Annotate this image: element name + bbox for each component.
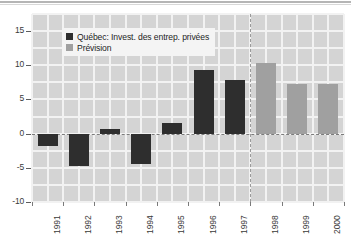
x-tick-mark xyxy=(157,202,158,206)
bar-1994 xyxy=(131,134,151,165)
bar-1998 xyxy=(256,63,276,134)
bar-1997 xyxy=(225,80,245,133)
y-tick-mark xyxy=(26,31,31,32)
x-tick-mark xyxy=(344,202,345,206)
x-tick-mark xyxy=(250,202,251,206)
header-rule-secondary xyxy=(0,4,351,5)
y-tick-mark xyxy=(26,134,31,135)
y-tick-label-neg10: -10 xyxy=(0,197,24,206)
y-tick-mark xyxy=(26,168,31,169)
legend-label-actual: Québec: Invest. des entrep. privées xyxy=(77,32,209,42)
x-tick-label-1992: 1992 xyxy=(83,215,93,234)
x-tick-label-1991: 1991 xyxy=(52,215,62,234)
y-tick-mark xyxy=(26,65,31,66)
x-tick-label-1993: 1993 xyxy=(114,215,124,234)
bar-1993 xyxy=(100,129,120,134)
y-tick-label-5: 5 xyxy=(0,94,24,103)
bar-1995 xyxy=(162,123,182,134)
legend-item-forecast: Prévision xyxy=(66,42,209,53)
legend-label-forecast: Prévision xyxy=(77,43,111,53)
y-tick-mark xyxy=(26,99,31,100)
x-tick-mark xyxy=(32,202,33,206)
legend-item-actual: Québec: Invest. des entrep. privées xyxy=(66,31,209,42)
x-tick-mark xyxy=(282,202,283,206)
legend-swatch-actual xyxy=(66,33,73,40)
x-tick-mark xyxy=(188,202,189,206)
y-tick-label-neg5: -5 xyxy=(0,163,24,172)
chart-figure: 151050-5-10 1991199219931994199519961997… xyxy=(0,0,351,240)
bar-1992 xyxy=(69,134,89,167)
bar-1991 xyxy=(38,134,58,146)
y-tick-mark xyxy=(26,202,31,203)
x-tick-label-1999: 1999 xyxy=(301,215,311,234)
x-tick-mark xyxy=(126,202,127,206)
x-tick-label-1995: 1995 xyxy=(176,215,186,234)
y-tick-label-0: 0 xyxy=(0,129,24,138)
y-tick-label-15: 15 xyxy=(0,26,24,35)
x-tick-mark xyxy=(94,202,95,206)
y-axis: 151050-5-10 xyxy=(0,14,32,202)
legend-swatch-forecast xyxy=(66,44,73,51)
x-tick-label-1997: 1997 xyxy=(239,215,249,234)
x-tick-label-2000: 2000 xyxy=(332,215,342,234)
x-tick-mark xyxy=(313,202,314,206)
x-tick-label-1998: 1998 xyxy=(270,215,280,234)
x-tick-mark xyxy=(63,202,64,206)
header-rule-primary xyxy=(0,1,351,3)
bar-1996 xyxy=(194,70,214,134)
x-tick-label-1996: 1996 xyxy=(208,215,218,234)
bar-1999 xyxy=(287,84,307,133)
y-tick-label-10: 10 xyxy=(0,60,24,69)
chart-legend: Québec: Invest. des entrep. privées Prév… xyxy=(62,28,215,56)
x-tick-mark xyxy=(219,202,220,206)
bar-2000 xyxy=(318,84,338,133)
x-axis: 1991199219931994199519961997199819992000 xyxy=(32,202,344,240)
x-tick-label-1994: 1994 xyxy=(145,215,155,234)
